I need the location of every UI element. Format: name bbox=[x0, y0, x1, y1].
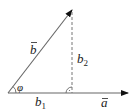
right-angle-mark bbox=[66, 87, 72, 93]
label-vector-a: a bbox=[101, 95, 108, 110]
vector-diagram: b b2 φ b1 a bbox=[0, 0, 136, 112]
label-component-perp: b2 bbox=[77, 51, 88, 68]
right-angle-dot bbox=[69, 90, 70, 91]
angle-arc bbox=[13, 87, 16, 94]
label-angle-phi: φ bbox=[17, 81, 23, 93]
label-component-parallel: b1 bbox=[35, 94, 46, 111]
label-vector-b: b bbox=[30, 42, 37, 57]
